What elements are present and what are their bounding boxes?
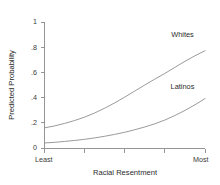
data-curves [45,51,206,143]
x-tick-label-most: Most [193,155,209,164]
y-tick-label-08: .8 [31,43,37,52]
y-tick-label-1: 1 [33,17,37,26]
series-label-whites: Whites [171,30,194,39]
series-label-latinos: Latinos [171,82,195,91]
y-tick-label-06: .6 [31,68,37,77]
predicted-probability-line-chart: 1 .8 .6 .4 .2 0 Least Most Racial Resent… [0,0,220,185]
y-tick-marks [41,22,45,148]
x-axis-title: Racial Resentment [93,168,158,177]
curve-latinos [45,99,206,143]
y-axis-title: Predicted Probability [7,50,16,120]
y-tick-label-02: .2 [31,118,37,127]
x-tick-marks [45,149,206,154]
y-tick-label-0: 0 [33,143,37,152]
x-tick-label-least: Least [35,155,53,164]
chart-figure: 1 .8 .6 .4 .2 0 Least Most Racial Resent… [0,0,220,185]
y-tick-label-04: .4 [31,93,37,102]
